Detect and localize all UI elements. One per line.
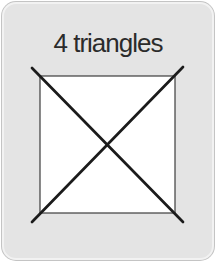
square-with-diagonals-figure xyxy=(0,0,222,269)
page-canvas: 4 triangles xyxy=(0,0,222,269)
